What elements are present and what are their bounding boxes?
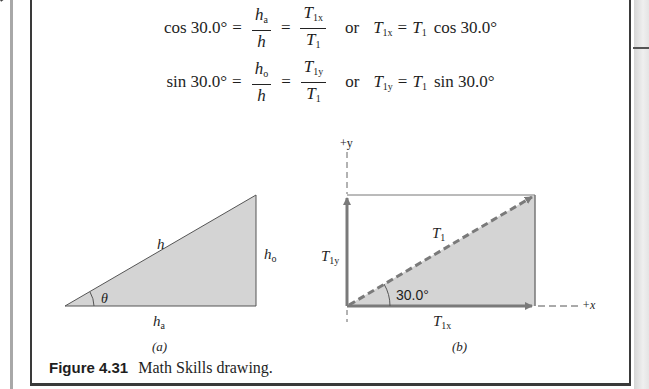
caption-text: Math Skills drawing.: [138, 359, 273, 376]
diagrams-svg: [0, 0, 649, 389]
label-t1x: T1x: [433, 313, 451, 331]
label-hypotenuse: h: [157, 236, 165, 253]
label-t1y: T1y: [321, 248, 339, 266]
figure-number: Figure 4.31: [49, 359, 128, 376]
label-t1: T1: [432, 225, 445, 243]
figure-caption: Figure 4.31 Math Skills drawing.: [49, 359, 273, 377]
vector-diagram-b: [347, 152, 580, 322]
label-opposite: ho: [264, 246, 277, 264]
label-angle-30: 30.0°: [396, 287, 429, 303]
label-theta: θ: [101, 291, 108, 307]
sublabel-b: (b): [452, 339, 467, 355]
label-plus-y: +y: [340, 136, 353, 151]
label-adjacent: ha: [153, 313, 165, 331]
sublabel-a: (a): [152, 339, 167, 355]
label-plus-x: +x: [582, 298, 595, 313]
